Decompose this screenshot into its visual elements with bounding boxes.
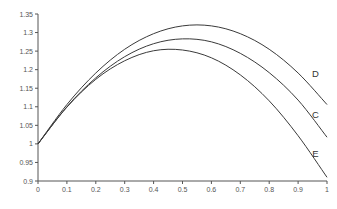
curve-labels: DCE [312, 68, 319, 159]
x-tick-label: 0.1 [62, 186, 72, 193]
x-tick-label: 1 [325, 186, 329, 193]
curve-label-c: C [312, 109, 319, 120]
y-tick-label: 1.3 [23, 29, 33, 36]
x-tick-label: 0 [36, 186, 40, 193]
y-tick-label: 1.25 [19, 48, 33, 55]
curve-e [38, 49, 327, 177]
line-chart: 0.90.9511.051.11.151.21.251.31.35 00.10.… [0, 0, 337, 209]
y-tick-label: 0.9 [23, 178, 33, 185]
y-tick-label: 1.1 [23, 103, 33, 110]
x-tick-label: 0.7 [235, 186, 245, 193]
x-tick-label: 0.5 [178, 186, 188, 193]
y-tick-label: 0.95 [19, 159, 33, 166]
x-tick-label: 0.2 [91, 186, 101, 193]
x-tick-label: 0.6 [207, 186, 217, 193]
x-tick-label: 0.3 [120, 186, 130, 193]
curve-d [38, 25, 327, 144]
plot-area [38, 25, 327, 177]
y-tick-label: 1 [29, 140, 33, 147]
curve-label-d: D [312, 68, 319, 79]
y-axis: 0.90.9511.051.11.151.21.251.31.35 [19, 11, 38, 185]
y-tick-label: 1.15 [19, 85, 33, 92]
y-tick-label: 1.35 [19, 11, 33, 18]
x-tick-label: 0.8 [264, 186, 274, 193]
curve-label-e: E [312, 148, 318, 159]
curve-c [38, 39, 327, 144]
x-tick-label: 0.9 [293, 186, 303, 193]
x-tick-label: 0.4 [149, 186, 159, 193]
y-tick-label: 1.2 [23, 66, 33, 73]
y-tick-label: 1.05 [19, 122, 33, 129]
x-axis: 00.10.20.30.40.50.60.70.80.91 [36, 181, 329, 193]
